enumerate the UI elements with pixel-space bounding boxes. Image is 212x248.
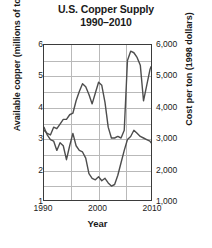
x-axis-tick-label: 2010 bbox=[132, 203, 172, 213]
y-axis-left-tick-label: 2 bbox=[21, 165, 43, 174]
y-axis-left-tick-label: 3 bbox=[21, 134, 43, 143]
series-line bbox=[44, 127, 151, 186]
chart-container: U.S. Copper Supply 1990–2010 654321 6,00… bbox=[0, 0, 212, 248]
x-axis-title: Year bbox=[43, 218, 152, 229]
y-axis-right-tick-label: 4,000 bbox=[156, 102, 186, 111]
series-lines bbox=[44, 45, 151, 200]
x-axis-tick-label: 2000 bbox=[78, 203, 118, 213]
chart-title: U.S. Copper Supply 1990–2010 bbox=[0, 3, 212, 28]
chart-title-line1: U.S. Copper Supply bbox=[58, 3, 154, 15]
y-axis-left-tick-label: 4 bbox=[21, 102, 43, 111]
y-axis-left-title: Available copper (millions of tons) bbox=[12, 0, 22, 138]
plot-area bbox=[43, 44, 152, 201]
y-axis-left-tick-label: 6 bbox=[21, 40, 43, 49]
y-axis-right-tick-label: 2,000 bbox=[156, 165, 186, 174]
y-axis-right-tick-label: 3,000 bbox=[156, 134, 186, 143]
y-axis-right-tick-label: 5,000 bbox=[156, 71, 186, 80]
y-axis-right-title: Cost per ton (1998 dollars) bbox=[184, 0, 194, 139]
chart-title-line2: 1990–2010 bbox=[0, 16, 212, 29]
x-axis-tick-label: 1990 bbox=[23, 203, 63, 213]
y-axis-left-tick-label: 5 bbox=[21, 71, 43, 80]
series-line bbox=[44, 51, 151, 138]
y-axis-right-tick-label: 6,000 bbox=[156, 40, 186, 49]
